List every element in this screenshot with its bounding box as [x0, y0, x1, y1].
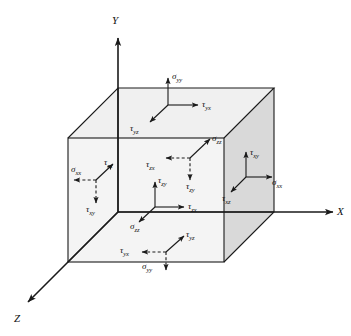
tau-zy-subscript: zy [189, 186, 194, 193]
sigma-zz-subscript: zz [216, 138, 221, 145]
label-tau-xz-right: τxz [222, 194, 231, 205]
tau-zx-subscript: zx [191, 206, 196, 213]
label-sigma-yy-bottom: σyy [142, 262, 152, 273]
label-tau-yz-top: τyz [130, 124, 139, 135]
tau-xz-subscript: xz [107, 162, 112, 169]
label-sigma-xx-left: σxx [71, 165, 81, 176]
tau-yz-subscript: yz [133, 128, 138, 135]
label-tau-xy-right: τxy [250, 148, 259, 159]
sigma-yy-subscript: yy [176, 76, 182, 83]
label-tau-xz-left: τxz [104, 158, 113, 169]
label-sigma-zz-back: σzz [212, 134, 222, 145]
tau-zx-subscript: zx [149, 164, 154, 171]
tau-zy-subscript: zy [161, 180, 166, 187]
label-sigma-yy-top: σyy [172, 72, 182, 83]
label-sigma-xx-right: σxx [272, 178, 282, 189]
sigma-yy-subscript: yy [146, 266, 152, 273]
tau-yx-subscript: yx [205, 104, 211, 111]
figure-canvas [0, 0, 351, 336]
label-tau-zx-front: τzx [188, 202, 197, 213]
tau-xy-subscript: xy [89, 209, 95, 216]
label-tau-zx-back: τzx [146, 160, 155, 171]
sigma-zz-subscript: zz [134, 226, 139, 233]
tau-yx-subscript: yx [123, 250, 129, 257]
axis-label-y: Y [112, 14, 118, 26]
axis-label-x: X [337, 205, 344, 217]
label-tau-yz-bottom: τyz [186, 230, 195, 241]
cube-front-face [68, 138, 224, 262]
label-tau-xy-left: τxy [86, 205, 95, 216]
sigma-xx-subscript: xx [276, 182, 282, 189]
axis-label-z: Z [14, 312, 20, 324]
tau-yz-subscript: yz [189, 234, 194, 241]
tau-xy-subscript: xy [253, 152, 259, 159]
tau-xz-subscript: xz [225, 198, 230, 205]
sigma-xx-subscript: xx [75, 169, 81, 176]
label-tau-yx-top: τyx [202, 100, 211, 111]
label-sigma-zz-front: σzz [130, 222, 140, 233]
stress-element-figure: Y X Z σyy τyx τyz σzz τzx τzy τzy τzx σz… [0, 0, 351, 336]
cube-faces [68, 88, 274, 262]
label-tau-zy-back: τzy [186, 182, 195, 193]
label-tau-yx-bottom: τyx [120, 246, 129, 257]
label-tau-zy-front: τzy [158, 176, 167, 187]
